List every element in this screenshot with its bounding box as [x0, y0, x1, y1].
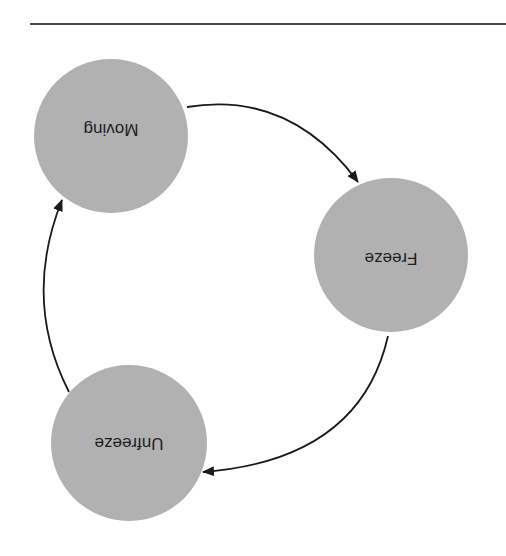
edge-moving-to-freeze	[187, 104, 358, 182]
node-unfreeze-label: Unfreeze	[95, 434, 164, 453]
node-freeze-label: Freeze	[365, 249, 418, 268]
node-freeze: Freeze	[314, 178, 468, 332]
node-unfreeze: Unfreeze	[51, 365, 207, 521]
node-moving-label: Moving	[84, 120, 139, 139]
state-cycle-diagram: Moving Freeze Unfreeze	[0, 0, 506, 556]
edge-unfreeze-to-moving	[44, 200, 69, 392]
node-moving: Moving	[34, 59, 188, 213]
edge-freeze-to-unfreeze	[203, 336, 388, 472]
